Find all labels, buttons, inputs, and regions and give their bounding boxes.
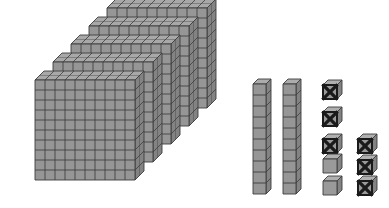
ones-cube-1-crossed-out [319, 76, 346, 103]
ones-cube-8-crossed-out [354, 172, 381, 199]
base-ten-blocks-illustration: Hundreds Tens Ones Base Ten Blocks Subtr… [0, 0, 389, 208]
ones-cube-2-crossed-out [319, 103, 346, 130]
tens-rod-2 [280, 76, 304, 197]
ones-cube-5 [319, 172, 346, 199]
cube-front-face [323, 159, 337, 173]
hundreds-flat-5 [31, 67, 148, 184]
cube-front-face [323, 181, 337, 195]
tens-rod-1 [250, 76, 274, 197]
